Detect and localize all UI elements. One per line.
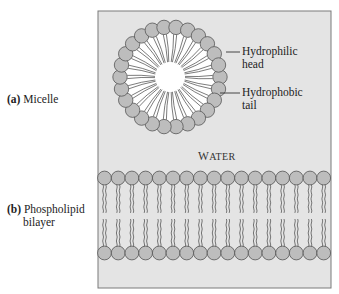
hydrophilic-head bbox=[194, 246, 208, 260]
hydrophilic-head bbox=[248, 171, 262, 185]
hydrophilic-head bbox=[98, 171, 112, 185]
panel-b-label-line2: bilayer bbox=[7, 216, 85, 229]
panel-a-caption: (a) Micelle bbox=[7, 93, 58, 106]
hydrophilic-head bbox=[111, 171, 125, 185]
hydrophilic-head bbox=[289, 246, 303, 260]
panel-b-label-line1: Phospholipid bbox=[24, 203, 85, 215]
hydrophilic-head bbox=[303, 246, 317, 260]
panel-b-caption: (b) Phospholipid bilayer bbox=[7, 203, 85, 229]
hydrophilic-head bbox=[211, 58, 225, 72]
hydrophilic-head bbox=[276, 171, 290, 185]
hydrophilic-head bbox=[125, 246, 139, 260]
hydrophilic-head bbox=[317, 171, 331, 185]
annotation-hydrophilic-head: Hydrophilic head bbox=[242, 45, 298, 71]
hydrophilic-head bbox=[180, 171, 194, 185]
water-label-initial: W bbox=[198, 150, 209, 162]
hydrophilic-head bbox=[139, 246, 153, 260]
hydrophilic-head bbox=[180, 246, 194, 260]
hydrophilic-head bbox=[235, 246, 249, 260]
hydrophilic-head bbox=[207, 246, 221, 260]
hydrophilic-head bbox=[152, 171, 166, 185]
tail-label: tail bbox=[242, 99, 303, 112]
hydrophobic-label: Hydrophobic bbox=[242, 86, 303, 99]
hydrophilic-head bbox=[111, 246, 125, 260]
hydrophilic-head bbox=[125, 171, 139, 185]
hydrophilic-head bbox=[317, 246, 331, 260]
hydrophilic-head bbox=[139, 171, 153, 185]
head-label: head bbox=[242, 58, 298, 71]
hydrophilic-head bbox=[98, 246, 112, 260]
annotation-hydrophobic-tail: Hydrophobic tail bbox=[242, 86, 303, 112]
hydrophilic-head bbox=[262, 171, 276, 185]
panel-a-letter: (a) bbox=[7, 93, 20, 105]
panel-a-label: Micelle bbox=[23, 93, 58, 105]
hydrophilic-head bbox=[194, 171, 208, 185]
hydrophilic-head bbox=[289, 171, 303, 185]
hydrophilic-head bbox=[221, 171, 235, 185]
water-label-rest: ATER bbox=[209, 151, 235, 162]
hydrophilic-head bbox=[235, 171, 249, 185]
hydrophilic-head bbox=[262, 246, 276, 260]
micelle bbox=[113, 20, 227, 134]
hydrophilic-head bbox=[152, 246, 166, 260]
hydrophilic-head bbox=[276, 246, 290, 260]
panel-b-letter: (b) bbox=[7, 203, 21, 215]
hydrophilic-head bbox=[166, 246, 180, 260]
hydrophilic-head bbox=[248, 246, 262, 260]
hydrophilic-head bbox=[207, 171, 221, 185]
hydrophilic-label: Hydrophilic bbox=[242, 45, 298, 58]
hydrophilic-head bbox=[303, 171, 317, 185]
hydrophilic-head bbox=[166, 171, 180, 185]
water-label: WATER bbox=[198, 150, 235, 162]
hydrophilic-head bbox=[221, 246, 235, 260]
